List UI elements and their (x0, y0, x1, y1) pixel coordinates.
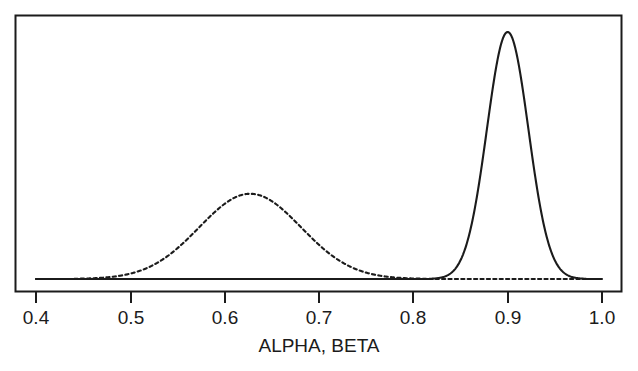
x-axis-title: ALPHA, BETA (258, 336, 379, 355)
x-tick-label-3: 0.7 (306, 308, 332, 327)
x-tick-label-2: 0.6 (212, 308, 238, 327)
x-tick-label-1: 0.5 (118, 308, 144, 327)
x-tick-label-4: 0.8 (400, 308, 426, 327)
plot-frame (16, 16, 622, 292)
chart-figure: 0.4 0.5 0.6 0.7 0.8 0.9 1.0 ALPHA, BETA (0, 0, 638, 371)
x-axis-ticks (36, 292, 602, 303)
x-tick-label-6: 1.0 (589, 308, 615, 327)
x-tick-label-0: 0.4 (23, 308, 49, 327)
x-tick-label-5: 0.9 (495, 308, 521, 327)
